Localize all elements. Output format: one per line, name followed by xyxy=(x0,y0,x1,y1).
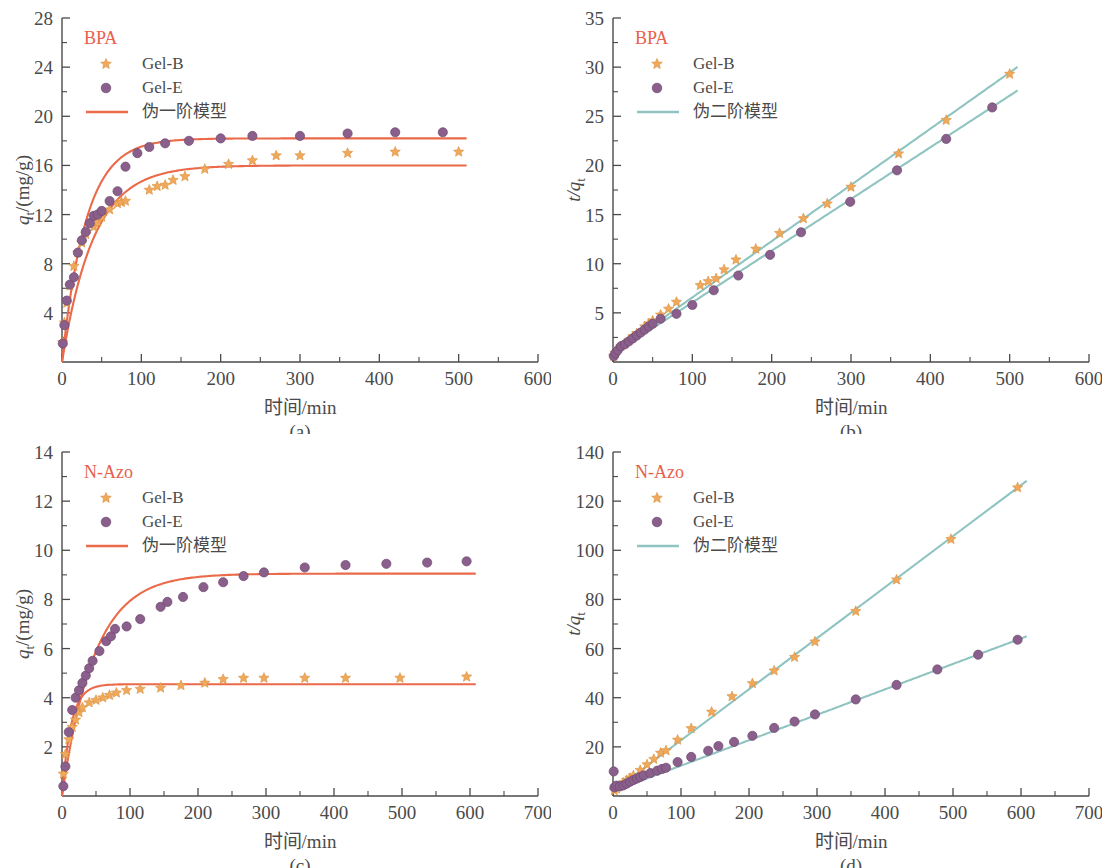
x-tick-label: 700 xyxy=(1075,802,1102,823)
y-tick-label: 20 xyxy=(585,737,604,758)
data-point-star xyxy=(461,671,471,681)
data-point-circle xyxy=(438,128,447,137)
data-point-circle xyxy=(734,271,743,280)
data-point-circle xyxy=(122,622,131,631)
axes-d xyxy=(613,452,1089,796)
data-point-circle xyxy=(73,248,82,257)
axes-a xyxy=(62,18,538,362)
y-tick-label: 16 xyxy=(34,155,53,176)
series-gel-b xyxy=(58,671,472,778)
x-axis-title: 时间/min xyxy=(815,831,888,852)
legend-item-label: 伪二阶模型 xyxy=(693,102,778,121)
x-ticks-d: 0100200300400500600700 xyxy=(608,788,1102,823)
data-point-circle xyxy=(121,162,130,171)
x-axis-title: 时间/min xyxy=(815,397,888,418)
y-tick-label: 2 xyxy=(44,737,54,758)
y-axis-title: t/qt xyxy=(563,612,588,636)
y-tick-label: 4 xyxy=(44,688,54,709)
panel-label: (a) xyxy=(289,421,310,434)
figure-root: 0100200300400500600481216202428时间/minqt/… xyxy=(0,0,1102,868)
x-tick-label: 200 xyxy=(735,802,764,823)
axes-c xyxy=(62,452,538,796)
data-point-circle xyxy=(423,558,432,567)
data-point-star xyxy=(218,674,228,684)
legend-circle-icon xyxy=(652,517,662,527)
data-point-star xyxy=(941,115,951,125)
x-tick-label: 0 xyxy=(608,368,618,389)
x-tick-label: 100 xyxy=(116,802,145,823)
data-point-star xyxy=(200,678,210,688)
data-point-circle xyxy=(248,131,257,140)
data-point-circle xyxy=(178,592,187,601)
data-point-circle xyxy=(974,650,983,659)
legend-item-label: 伪一阶模型 xyxy=(142,536,227,555)
x-tick-label: 100 xyxy=(127,368,156,389)
y-ticks-d: 20406080100120140 xyxy=(576,442,622,771)
data-point-circle xyxy=(672,309,681,318)
data-point-circle xyxy=(300,563,309,572)
chart-svg-d: 010020030040050060070020406080100120140时… xyxy=(551,434,1102,868)
y-tick-label: 5 xyxy=(595,303,605,324)
data-point-circle xyxy=(391,128,400,137)
data-point-star xyxy=(390,147,400,157)
data-point-circle xyxy=(163,597,172,606)
legend-circle-icon xyxy=(101,83,111,93)
y-tick-label: 4 xyxy=(44,303,54,324)
data-point-circle xyxy=(810,710,819,719)
data-point-circle xyxy=(729,737,738,746)
data-point-star xyxy=(238,673,248,683)
data-point-circle xyxy=(88,656,97,665)
model-curve xyxy=(613,636,1027,791)
data-point-circle xyxy=(133,149,142,158)
legend-item-label: Gel-B xyxy=(693,54,735,73)
y-tick-label: 20 xyxy=(34,106,53,127)
legend-item-label: Gel-E xyxy=(142,78,183,97)
legend-item-label: 伪二阶模型 xyxy=(693,536,778,555)
data-point-star xyxy=(121,685,131,695)
x-tick-label: 500 xyxy=(388,802,417,823)
data-point-circle xyxy=(770,723,779,732)
legend-item-label: Gel-E xyxy=(693,78,734,97)
chart-svg-c: 01002003004005006007002468101214时间/minqt… xyxy=(0,434,551,868)
y-tick-label: 140 xyxy=(576,442,605,463)
legend-item-label: Gel-B xyxy=(142,54,184,73)
x-tick-label: 300 xyxy=(286,368,315,389)
y-tick-label: 20 xyxy=(585,155,604,176)
data-point-circle xyxy=(796,228,805,237)
data-point-circle xyxy=(95,646,104,655)
legend-star-icon xyxy=(652,58,663,68)
data-point-star xyxy=(180,171,190,181)
y-tick-label: 60 xyxy=(585,639,604,660)
y-ticks-b: 5101520253035 xyxy=(585,8,621,337)
data-point-star xyxy=(342,148,352,158)
x-tick-label: 600 xyxy=(1007,802,1036,823)
data-point-circle xyxy=(748,731,757,740)
data-point-circle xyxy=(61,762,70,771)
data-point-circle xyxy=(714,742,723,751)
legend-title: BPA xyxy=(84,28,117,48)
legend-a: BPAGel-BGel-E伪一阶模型 xyxy=(84,28,227,121)
data-point-circle xyxy=(69,273,78,282)
x-ticks-c: 0100200300400500600700 xyxy=(57,788,551,823)
data-point-circle xyxy=(199,583,208,592)
data-point-circle xyxy=(704,746,713,755)
y-tick-label: 6 xyxy=(44,639,54,660)
x-tick-label: 300 xyxy=(252,802,281,823)
y-tick-label: 8 xyxy=(44,589,54,610)
data-point-circle xyxy=(846,197,855,206)
data-point-star xyxy=(176,680,186,690)
y-tick-label: 12 xyxy=(34,491,53,512)
model-curve xyxy=(613,481,1027,792)
data-point-circle xyxy=(687,752,696,761)
data-point-circle xyxy=(145,142,154,151)
x-tick-label: 200 xyxy=(184,802,213,823)
data-point-circle xyxy=(673,757,682,766)
x-tick-label: 200 xyxy=(757,368,786,389)
x-tick-label: 100 xyxy=(667,802,696,823)
y-tick-label: 8 xyxy=(44,254,54,275)
data-point-circle xyxy=(942,134,951,143)
data-point-circle xyxy=(136,614,145,623)
y-tick-label: 10 xyxy=(34,540,53,561)
chart-panel-c: 01002003004005006007002468101214时间/minqt… xyxy=(0,434,551,868)
data-point-circle xyxy=(184,136,193,145)
